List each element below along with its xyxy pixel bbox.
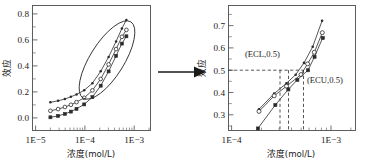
right-series-upper: [258, 19, 324, 110]
right-xtick-0: 1E−4: [222, 135, 242, 145]
left-xtick-1: 1E−4: [75, 135, 95, 145]
right-y-tick-labels: 0.3 0.4 0.5 0.6 0.7: [214, 21, 226, 120]
left-xtick-2: 1E−3: [124, 135, 144, 145]
right-x-axis-ticks: [232, 126, 351, 131]
left-x-axis-ticks: [36, 126, 149, 131]
right-ytick-0: 0.3: [214, 110, 226, 120]
left-ytick-3: 0.6: [18, 35, 30, 45]
right-ytick-2: 0.5: [214, 66, 226, 76]
left-chart-svg: 0.0 0.2 0.4 0.6 0.8 效应: [0, 0, 176, 165]
right-plot-frame: [229, 6, 356, 131]
left-xtick-0: 1E−5: [26, 135, 46, 145]
right-y-axis-label: 效应: [196, 59, 207, 77]
right-ytick-1: 0.4: [214, 88, 226, 98]
left-ytick-2: 0.4: [18, 61, 30, 71]
left-y-axis-ticks: [33, 14, 38, 118]
left-y-axis-label: 效应: [1, 59, 12, 77]
right-x-axis-label: 浓度(mol/L): [267, 148, 315, 159]
right-xtick-1: 1E−3: [321, 135, 341, 145]
right-chart-svg: 0.3 0.4 0.5 0.6 0.7 效应: [183, 0, 366, 165]
left-ytick-4: 0.8: [18, 9, 30, 19]
right-x-tick-labels: 1E−4 1E−3: [222, 135, 342, 145]
figure-root: 0.0 0.2 0.4 0.6 0.8 效应: [0, 0, 366, 165]
right-ytick-4: 0.7: [214, 21, 226, 31]
left-y-tick-labels: 0.0 0.2 0.4 0.6 0.8: [18, 9, 30, 123]
left-chart-panel: 0.0 0.2 0.4 0.6 0.8 效应: [0, 0, 176, 165]
left-ytick-1: 0.2: [18, 87, 30, 97]
left-ytick-0: 0.0: [18, 113, 30, 123]
left-x-tick-labels: 1E−5 1E−4 1E−3: [26, 135, 145, 145]
ecu-annotation-label: (ECU,0.5): [307, 75, 343, 85]
right-ytick-3: 0.6: [214, 43, 226, 53]
left-series-upper: [49, 19, 128, 104]
ecl-annotation-label: (ECL,0.5): [245, 49, 280, 59]
right-chart-panel: 0.3 0.4 0.5 0.6 0.7 效应: [183, 0, 366, 165]
left-x-axis-label: 浓度(mol/L): [67, 148, 115, 159]
